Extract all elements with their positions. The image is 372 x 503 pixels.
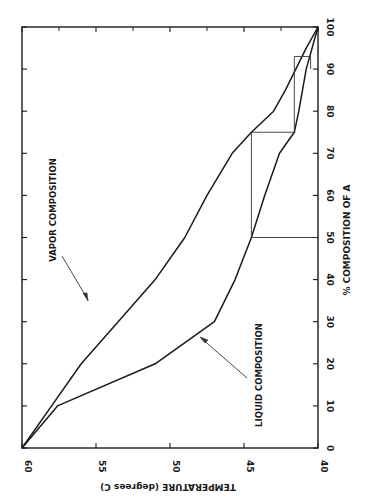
composition-tick-label: 0 xyxy=(325,445,335,451)
composition-axis-title: % COMPOSITION OF A xyxy=(342,184,352,295)
composition-tick-label: 90 xyxy=(325,63,335,76)
vapor-composition-label: VAPOR COMPOSITION xyxy=(48,158,58,262)
temperature-axis-title: TEMPERATURE (degrees C) xyxy=(100,482,236,492)
vapor-arrow xyxy=(62,256,88,301)
arrowhead-icon xyxy=(200,337,208,343)
composition-tick-label: 60 xyxy=(325,189,335,202)
binary-phase-diagram: 60555045400102030405060708090100 TEMPERA… xyxy=(0,0,372,503)
temperature-tick-label: 55 xyxy=(97,460,107,473)
composition-tick-label: 20 xyxy=(325,358,335,371)
temperature-tick-label: 50 xyxy=(171,460,181,473)
temperature-tick-label: 45 xyxy=(245,460,255,473)
temperature-tick-label: 40 xyxy=(319,460,329,473)
arrowhead-icon xyxy=(83,293,88,301)
composition-tick-label: 40 xyxy=(325,273,335,286)
liquid-composition-label: LIQUID COMPOSITION xyxy=(254,323,264,427)
composition-tick-label: 100 xyxy=(325,18,335,37)
liquid-arrow xyxy=(200,337,247,378)
composition-tick-label: 10 xyxy=(325,400,335,413)
composition-tick-label: 30 xyxy=(325,315,335,328)
composition-tick-label: 80 xyxy=(325,105,335,118)
composition-tick-label: 50 xyxy=(325,231,335,244)
temperature-tick-label: 60 xyxy=(23,460,33,473)
composition-tick-label: 70 xyxy=(325,147,335,160)
